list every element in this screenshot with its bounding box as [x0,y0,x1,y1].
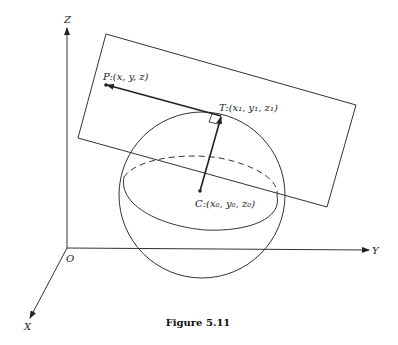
figure-tangent-plane-sphere: Z Y X O P:(x, y, z) T:(x₁, y₁, z₁) C:(x₀… [0,0,398,345]
origin-label: O [66,253,74,264]
z-axis-label: Z [63,14,72,25]
figure-caption: Figure 5.11 [166,317,231,328]
vectors [104,83,221,193]
point-p-coords: :(x, y, z) [109,71,148,82]
coordinate-axes [30,28,369,318]
x-axis-label: X [23,321,32,332]
vector-t-to-p [107,85,221,116]
y-axis [67,248,369,250]
point-c-coords: :(x₀, y₀, z₀) [203,198,256,209]
sphere-outline [119,112,285,278]
y-axis-label: Y [372,245,380,256]
sphere [119,112,285,278]
point-c-label: C:(x₀, y₀, z₀) [195,198,255,209]
point-c-dot [198,189,202,193]
point-t-coords: :(x₁, y₁, z₁) [225,102,278,113]
vector-c-to-t [200,117,221,191]
x-axis [30,248,67,318]
point-p-dot [104,83,108,87]
point-t-label: T:(x₁, y₁, z₁) [219,102,278,113]
point-p-label: P:(x, y, z) [102,71,149,82]
diagram-canvas: Z Y X O P:(x, y, z) T:(x₁, y₁, z₁) C:(x₀… [0,0,398,345]
